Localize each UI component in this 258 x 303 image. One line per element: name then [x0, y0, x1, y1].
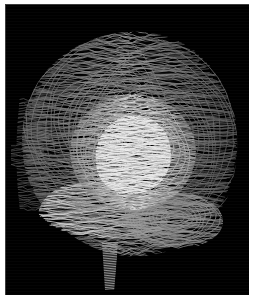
figure-root: Sagittal brain contour-stack rendering: [0, 0, 258, 303]
brain-contour-rendering: [5, 4, 249, 295]
brain-image-canvas: [5, 4, 249, 295]
